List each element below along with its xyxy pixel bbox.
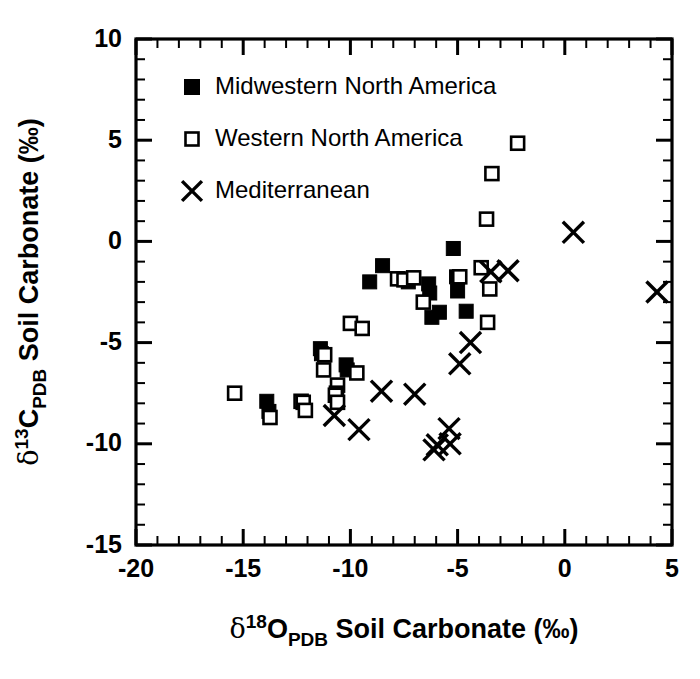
legend-marker (186, 133, 199, 146)
x-tick-label: -10 (332, 554, 368, 582)
data-point (356, 322, 369, 335)
legend-marker (182, 181, 202, 201)
legend-item-1: Western North America (186, 124, 464, 151)
scatter-plot-figure: -20-15-10-505 -15-10-50510 Midwestern No… (0, 0, 700, 679)
data-point (485, 167, 498, 180)
data-point (440, 433, 461, 454)
data-point (646, 281, 667, 302)
data-point (363, 275, 377, 289)
data-point (228, 387, 241, 400)
data-point (317, 363, 330, 376)
data-point (299, 404, 312, 417)
data-point (497, 260, 518, 281)
data-point (348, 419, 369, 440)
y-tick-label: 10 (94, 24, 122, 52)
y-tick-label: 0 (108, 226, 122, 254)
data-point (376, 259, 390, 273)
y-axis-tick-labels: -15-10-50510 (86, 24, 122, 558)
svg-text:δ18OPDB Soil Carbonate (‰): δ18OPDB Soil Carbonate (‰) (229, 611, 578, 650)
y-tick-label: -10 (86, 428, 122, 456)
data-point (318, 348, 331, 361)
data-point (404, 384, 425, 405)
chart-canvas: -20-15-10-505 -15-10-50510 Midwestern No… (0, 0, 700, 679)
chart-legend: Midwestern North AmericaWestern North Am… (182, 72, 497, 203)
data-point (459, 304, 473, 318)
data-point (480, 213, 493, 226)
y-tick-label: -15 (86, 530, 122, 558)
x-tick-label: -5 (446, 554, 468, 582)
data-point (446, 241, 460, 255)
y-tick-label: -5 (100, 327, 122, 355)
data-point (432, 305, 446, 319)
data-point (483, 282, 496, 295)
x-axis-tick-labels: -20-15-10-505 (118, 554, 679, 582)
y-axis-ticks (136, 39, 672, 545)
data-point (350, 366, 363, 379)
legend-label: Mediterranean (215, 176, 370, 203)
data-point (563, 222, 584, 243)
data-point (407, 271, 420, 284)
plot-frame (136, 39, 672, 545)
data-point (481, 316, 494, 329)
legend-marker (185, 80, 200, 95)
y-axis-title: δ13CPDB Soil Carbonate (‰) (11, 118, 50, 466)
legend-label: Midwestern North America (215, 72, 497, 99)
legend-item-2: Mediterranean (182, 176, 370, 203)
x-tick-label: 5 (665, 554, 679, 582)
data-point (453, 270, 466, 283)
x-tick-label: -20 (118, 554, 154, 582)
data-point (460, 332, 481, 353)
data-point (371, 381, 392, 402)
y-tick-label: 5 (108, 125, 122, 153)
data-point (417, 296, 430, 309)
data-point (449, 353, 470, 374)
data-point (264, 411, 277, 424)
series-2 (324, 222, 668, 461)
data-point (511, 137, 524, 150)
x-tick-label: -15 (225, 554, 261, 582)
svg-text:δ13CPDB Soil Carbonate (‰): δ13CPDB Soil Carbonate (‰) (11, 118, 50, 466)
x-tick-label: 0 (558, 554, 572, 582)
data-point (451, 284, 465, 298)
legend-item-0: Midwestern North America (185, 72, 498, 99)
x-axis-ticks (136, 39, 672, 545)
legend-label: Western North America (215, 124, 463, 151)
x-axis-title: δ18OPDB Soil Carbonate (‰) (229, 611, 578, 650)
